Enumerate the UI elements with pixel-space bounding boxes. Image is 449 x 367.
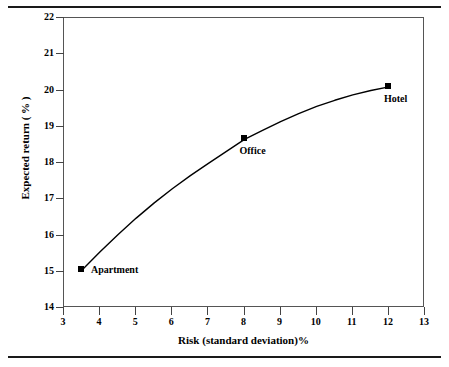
x-tick-9 — [280, 307, 281, 315]
x-tick-label-13: 13 — [414, 317, 434, 327]
x-tick-label-5: 5 — [125, 317, 145, 327]
marker-apartment[interactable] — [78, 266, 84, 272]
x-tick-8 — [244, 307, 245, 315]
x-tick-label-4: 4 — [89, 317, 109, 327]
point-label-office: Office — [240, 145, 266, 156]
y-tick-22 — [56, 17, 64, 18]
x-tick-13 — [424, 307, 425, 315]
y-tick-label-text: 14 — [24, 302, 54, 312]
x-tick-label-11: 11 — [342, 317, 362, 327]
y-tick-17 — [56, 198, 64, 199]
y-tick-label-text: 15 — [24, 266, 54, 276]
x-tick-4 — [99, 307, 100, 315]
x-tick-label-12: 12 — [378, 317, 398, 327]
point-label-hotel: Hotel — [384, 93, 407, 104]
x-tick-12 — [388, 307, 389, 315]
y-tick-19 — [56, 126, 64, 127]
x-tick-7 — [207, 307, 208, 315]
marker-hotel[interactable] — [385, 83, 391, 89]
bottom-horizontal-rule — [8, 356, 441, 358]
point-label-apartment: Apartment — [91, 264, 138, 275]
x-axis-title: Risk (standard deviation)% — [63, 334, 424, 346]
x-tick-5 — [135, 307, 136, 315]
y-tick-15 — [56, 271, 64, 272]
x-tick-label-7: 7 — [197, 317, 217, 327]
x-tick-label-10: 10 — [306, 317, 326, 327]
x-tick-label-6: 6 — [161, 317, 181, 327]
y-tick-label-text: 21 — [24, 48, 54, 58]
curve-path — [82, 87, 389, 270]
x-tick-label-8: 8 — [234, 317, 254, 327]
figure-container: 141516171819202122 345678910111213 Apart… — [0, 0, 449, 367]
x-tick-11 — [352, 307, 353, 315]
x-tick-6 — [171, 307, 172, 315]
x-tick-label-9: 9 — [270, 317, 290, 327]
y-tick-18 — [56, 162, 64, 163]
y-axis-title: Expected return ( % ) — [19, 63, 31, 233]
y-tick-20 — [56, 90, 64, 91]
y-tick-16 — [56, 235, 64, 236]
x-tick-10 — [316, 307, 317, 315]
marker-office[interactable] — [241, 135, 247, 141]
x-tick-3 — [63, 307, 64, 315]
y-tick-label-text: 22 — [24, 12, 54, 22]
x-tick-label-3: 3 — [53, 317, 73, 327]
y-tick-21 — [56, 53, 64, 54]
top-horizontal-rule — [8, 6, 441, 8]
